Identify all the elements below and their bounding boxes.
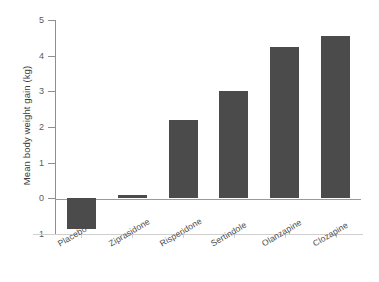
x-axis-label-ziprasidone: Ziprasidone (107, 216, 152, 248)
y-tick-label: 5 (28, 15, 44, 25)
y-tick-mark (48, 91, 55, 92)
y-tick-label: 3 (28, 86, 44, 96)
y-tick-label: 0 (28, 193, 44, 203)
bar-olanzapine[interactable] (270, 47, 299, 199)
x-axis-label-risperidone: Risperidone (158, 216, 203, 249)
y-tick-mark (48, 20, 55, 21)
bar-clozapine[interactable] (321, 36, 350, 198)
y-tick-label: 4 (28, 51, 44, 61)
bar-ziprasidone[interactable] (118, 195, 147, 199)
y-tick-label: 1 (28, 158, 44, 168)
y-tick-mark (48, 198, 55, 199)
y-tick-label: 2 (28, 122, 44, 132)
y-axis-line (55, 20, 56, 234)
zero-baseline (55, 199, 361, 200)
bar-risperidone[interactable] (169, 120, 198, 199)
y-tick-mark (48, 127, 55, 128)
bar-sertindole[interactable] (219, 91, 248, 198)
y-tick-mark (48, 56, 55, 57)
y-tick-mark (48, 163, 55, 164)
bar-chart-figure: Mean body weight gain (kg) -1012345 Plac… (0, 0, 379, 282)
